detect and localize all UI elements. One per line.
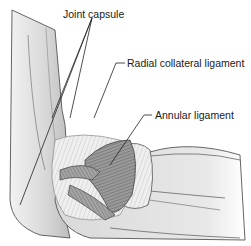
elbow-illustration [0, 0, 251, 246]
label-annular-ligament: Annular ligament [155, 109, 234, 121]
label-radial-collateral-ligament: Radial collateral ligament [127, 57, 244, 69]
elbow-diagram: Joint capsule Radial collateral ligament… [0, 0, 251, 246]
label-joint-capsule: Joint capsule [63, 8, 124, 20]
